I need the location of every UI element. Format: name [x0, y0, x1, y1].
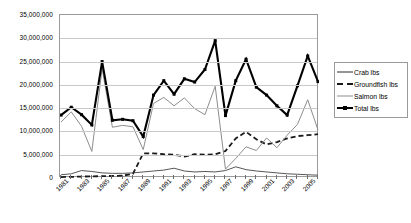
data-point-marker: [131, 119, 134, 122]
x-tick: [194, 175, 195, 179]
data-point-marker: [286, 114, 289, 117]
data-point-marker: [203, 68, 206, 71]
x-tick: [317, 175, 318, 179]
x-tick-label: 1983: [75, 177, 90, 192]
legend-label: Groundfish lbs: [354, 81, 398, 88]
x-tick: [81, 175, 82, 179]
x-tick: [235, 175, 236, 179]
legend-label: Total lbs: [354, 105, 379, 112]
x-tick: [60, 175, 61, 179]
chart-legend: Crab lbsGroundfish lbsSalmon lbsTotal lb…: [334, 62, 408, 118]
x-tick: [173, 175, 174, 179]
legend-swatch-icon: [336, 79, 354, 89]
x-tick: [276, 175, 277, 179]
data-point-marker: [173, 93, 176, 96]
y-tick-label: 5,000,000: [23, 150, 53, 157]
data-point-marker: [193, 81, 196, 84]
x-tick-label: 1999: [239, 177, 254, 192]
legend-swatch-icon: [336, 103, 354, 113]
y-tick-label: 10,000,000: [19, 127, 53, 134]
data-point-marker: [255, 86, 258, 89]
x-tick: [204, 175, 205, 179]
legend-swatch-icon: [336, 67, 354, 77]
data-point-marker: [224, 114, 227, 117]
data-point-marker: [245, 58, 248, 61]
data-point-marker: [142, 135, 145, 138]
x-tick: [307, 175, 308, 179]
x-tick: [111, 175, 112, 179]
x-tick: [286, 175, 287, 179]
y-tick-label: 25,000,000: [19, 57, 53, 64]
x-tick-label: 1991: [157, 177, 172, 192]
x-tick: [101, 175, 102, 179]
x-tick: [255, 175, 256, 179]
gridline: [60, 38, 317, 39]
legend-label: Crab lbs: [354, 69, 379, 76]
data-point-marker: [90, 123, 93, 126]
x-axis: 1981198319851987198919911993199519971999…: [59, 179, 318, 223]
y-tick-label: 15,000,000: [19, 104, 53, 111]
y-tick-label: 30,000,000: [19, 34, 53, 41]
legend-swatch-icon: [336, 91, 354, 101]
data-point-marker: [111, 119, 114, 122]
gridline: [60, 62, 317, 63]
x-tick: [142, 175, 143, 179]
gridline: [60, 155, 317, 156]
x-tick: [132, 175, 133, 179]
legend-label: Salmon lbs: [354, 93, 388, 100]
x-tick-label: 1993: [178, 177, 193, 192]
y-axis: 35,000,00030,000,00025,000,00020,000,000…: [0, 0, 56, 223]
x-tick: [214, 175, 215, 179]
plot-area: [59, 14, 318, 177]
data-point-marker: [317, 80, 320, 83]
x-tick-label: 2001: [260, 177, 275, 192]
x-tick-label: 2005: [301, 177, 316, 192]
data-point-marker: [152, 94, 155, 97]
series-layer: [60, 15, 319, 178]
gridline: [60, 108, 317, 109]
data-point-marker: [60, 114, 63, 117]
data-point-marker: [183, 77, 186, 80]
series-line-crab-lbs: [61, 167, 318, 175]
y-tick-label: 0: [49, 174, 53, 181]
gridline: [60, 85, 317, 86]
data-point-marker: [121, 118, 124, 121]
x-tick: [296, 175, 297, 179]
x-tick: [163, 175, 164, 179]
x-tick-label: 1985: [95, 177, 110, 192]
data-point-marker: [234, 79, 237, 82]
data-point-marker: [214, 39, 217, 42]
x-tick: [91, 175, 92, 179]
x-tick-label: 1997: [219, 177, 234, 192]
x-tick-label: 1989: [137, 177, 152, 192]
x-tick-label: 2003: [280, 177, 295, 192]
legend-item[interactable]: Groundfish lbs: [336, 78, 405, 90]
y-tick-label: 35,000,000: [19, 11, 53, 18]
data-point-marker: [80, 113, 83, 116]
legend-item[interactable]: Salmon lbs: [336, 90, 405, 102]
data-point-marker: [265, 94, 268, 97]
x-tick: [153, 175, 154, 179]
legend-item[interactable]: Total lbs: [336, 102, 405, 114]
legend-item[interactable]: Crab lbs: [336, 66, 405, 78]
data-point-marker: [275, 104, 278, 107]
x-tick: [70, 175, 71, 179]
y-tick-label: 20,000,000: [19, 80, 53, 87]
x-tick: [122, 175, 123, 179]
x-tick: [183, 175, 184, 179]
x-tick-label: 1987: [116, 177, 131, 192]
x-tick: [266, 175, 267, 179]
x-tick-label: 1981: [54, 177, 69, 192]
data-point-marker: [162, 79, 165, 82]
line-chart: 35,000,00030,000,00025,000,00020,000,000…: [0, 0, 411, 223]
x-tick: [245, 175, 246, 179]
x-tick: [224, 175, 225, 179]
x-tick-label: 1995: [198, 177, 213, 192]
data-point-marker: [306, 54, 309, 57]
gridline: [60, 131, 317, 132]
